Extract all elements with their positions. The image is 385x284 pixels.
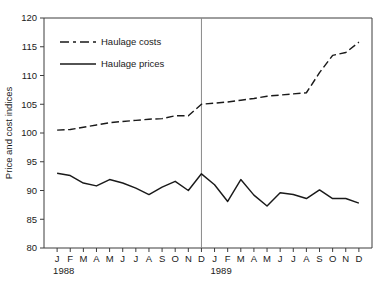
legend-label-haulage-prices: Haulage prices: [101, 58, 165, 69]
x-tick-label: S: [316, 253, 322, 264]
y-axis-title: Price and cost indices: [3, 87, 14, 180]
y-tick-label: 110: [22, 70, 37, 81]
y-tick-label: 85: [26, 214, 37, 225]
x-tick-label: N: [342, 253, 349, 264]
x-tick-label: J: [55, 253, 60, 264]
x-tick-label: A: [251, 253, 258, 264]
haulage-index-line-chart: 80859095100105110115120 JFMAMJJASONDJFMA…: [0, 0, 385, 284]
x-tick-label: N: [185, 253, 192, 264]
x-tick-label: D: [355, 253, 362, 264]
legend-label-haulage-costs: Haulage costs: [101, 36, 161, 47]
y-tick-label: 120: [21, 12, 37, 23]
haulage-costs-line: [57, 42, 359, 130]
x-axis-group-label-1989: 1989: [211, 265, 232, 276]
x-tick-label: J: [291, 253, 296, 264]
y-axis-ticks: 80859095100105110115120: [21, 12, 44, 253]
x-tick-label: F: [67, 253, 73, 264]
x-axis-group-label-1988: 1988: [53, 265, 74, 276]
x-tick-label: J: [120, 253, 125, 264]
x-tick-label: J: [278, 253, 283, 264]
y-tick-label: 80: [26, 242, 37, 253]
x-axis-ticks: JFMAMJJASONDJFMAMJJASOND: [55, 248, 363, 264]
x-tick-label: J: [133, 253, 138, 264]
x-tick-label: F: [225, 253, 231, 264]
chart-container: 80859095100105110115120 JFMAMJJASONDJFMA…: [0, 0, 385, 284]
y-tick-label: 115: [22, 41, 37, 52]
x-tick-label: M: [106, 253, 114, 264]
haulage-prices-line: [57, 173, 359, 206]
y-tick-label: 100: [21, 127, 37, 138]
x-tick-label: M: [237, 253, 245, 264]
y-tick-label: 90: [26, 185, 37, 196]
x-tick-label: D: [198, 253, 205, 264]
y-tick-label: 95: [26, 156, 37, 167]
x-tick-label: J: [212, 253, 217, 264]
x-tick-label: A: [146, 253, 153, 264]
x-tick-label: A: [93, 253, 100, 264]
y-tick-label: 105: [21, 99, 37, 110]
x-tick-label: M: [79, 253, 87, 264]
plot-frame: [44, 18, 372, 248]
legend: Haulage costs Haulage prices: [60, 36, 165, 69]
x-tick-label: M: [263, 253, 271, 264]
x-tick-label: S: [159, 253, 165, 264]
x-tick-label: O: [172, 253, 179, 264]
x-tick-label: A: [303, 253, 310, 264]
x-tick-label: O: [329, 253, 336, 264]
